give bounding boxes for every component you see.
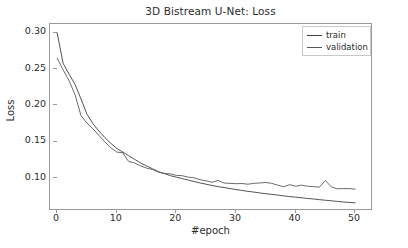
legend-swatch-validation [307, 47, 322, 48]
figure-canvas: 3D Bistream U-Net: Loss Loss #epoch 0.10… [0, 0, 408, 248]
legend-item-train[interactable]: train [307, 30, 366, 41]
legend-item-validation[interactable]: validation [307, 42, 366, 53]
legend-label-validation: validation [326, 42, 368, 53]
x-tick-label: 50 [334, 212, 374, 223]
x-tick-label: 20 [155, 212, 195, 223]
line-validation [57, 58, 355, 189]
x-tick-label: 0 [36, 212, 76, 223]
line-train [57, 33, 355, 203]
x-tick-label: 30 [215, 212, 255, 223]
legend-swatch-train [307, 35, 322, 36]
x-tick-label: 10 [96, 212, 136, 223]
x-tick-label: 40 [275, 212, 315, 223]
legend: train validation [302, 26, 371, 56]
legend-label-train: train [326, 30, 346, 41]
